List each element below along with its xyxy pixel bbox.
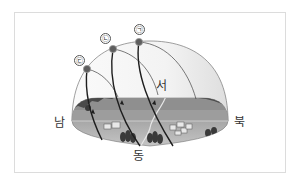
label-path-b: ㉡ xyxy=(100,33,111,44)
sun-icon xyxy=(83,65,90,72)
direction-north-label: 북 xyxy=(234,116,245,128)
direction-west-label: 서 xyxy=(156,80,167,92)
label-path-c: ㉢ xyxy=(74,55,85,66)
sun-icon xyxy=(135,38,142,45)
direction-south-label: 남 xyxy=(54,117,65,129)
direction-east-label: 동 xyxy=(133,150,144,162)
celestial-dome-diagram xyxy=(0,0,299,180)
sun-icon xyxy=(109,45,116,52)
label-path-a: ㉠ xyxy=(134,24,145,35)
